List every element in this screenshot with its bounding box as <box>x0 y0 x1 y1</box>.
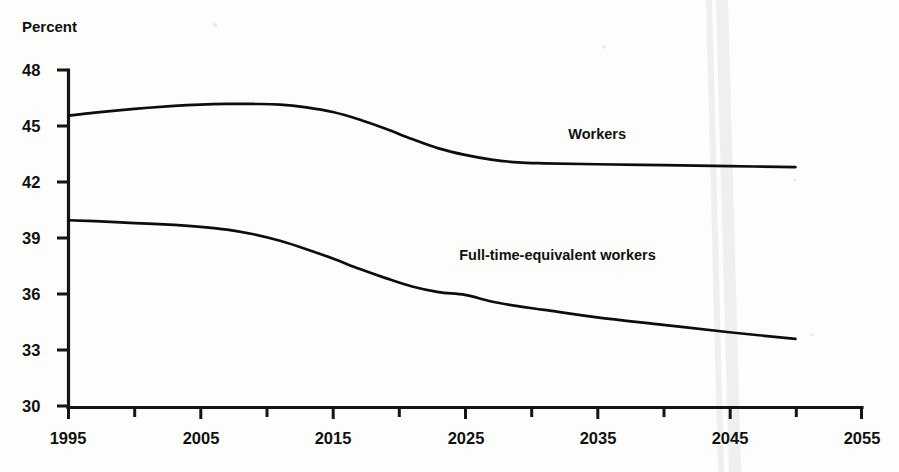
y-tick-label-30: 30 <box>22 397 40 415</box>
x-tick-label-2045: 2045 <box>712 429 749 447</box>
x-tick-label-2015: 2015 <box>315 429 352 447</box>
x-tick-label-2005: 2005 <box>183 429 220 447</box>
y-tick-label-33: 33 <box>22 341 40 359</box>
chart-figure: Percent 48 45 42 39 36 33 30 <box>0 0 899 472</box>
x-tick-label-2025: 2025 <box>448 429 485 447</box>
y-tick-label-36: 36 <box>22 285 40 303</box>
series-label-fte-workers: Full-time-equivalent workers <box>459 247 656 263</box>
y-tick-label-48: 48 <box>22 61 40 79</box>
y-tick-label-42: 42 <box>22 173 40 191</box>
y-tick-label-39: 39 <box>22 229 40 247</box>
chart-background <box>0 0 899 472</box>
x-tick-label-2055: 2055 <box>844 429 881 447</box>
series-label-workers: Workers <box>568 126 626 142</box>
x-tick-label-1995: 1995 <box>50 429 87 447</box>
chart-canvas: Percent 48 45 42 39 36 33 30 <box>0 0 899 472</box>
y-tick-label-45: 45 <box>22 117 40 135</box>
x-tick-label-2035: 2035 <box>580 429 617 447</box>
y-axis-title: Percent <box>22 18 77 35</box>
